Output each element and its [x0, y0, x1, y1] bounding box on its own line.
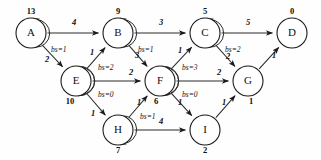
- self-loop-label-E-4: bs=0: [98, 90, 114, 99]
- node-label-D: D: [288, 26, 296, 38]
- self-loop-label-B-1: bs=1: [138, 45, 153, 54]
- graph-figure: ABCDEFGHI 4212133121141521bs=1bs=1bs=2bs…: [0, 0, 321, 160]
- edge-weight-E-H: 1: [91, 108, 95, 118]
- self-loop-label-E-3: bs=2: [98, 63, 114, 72]
- edge-weight-E-B: 1: [90, 47, 94, 57]
- edge-weight-B-C: 3: [158, 17, 164, 27]
- graph-node-G[interactable]: G: [233, 66, 263, 96]
- node-value-C: 5: [203, 6, 207, 16]
- node-value-I: 2: [203, 145, 207, 155]
- node-value-G: 1: [249, 96, 253, 106]
- node-value-F: 6: [154, 96, 158, 106]
- node-value-A: 13: [27, 6, 36, 16]
- edge-weight-E-F: 2: [128, 67, 134, 77]
- edge-weight-A-B: 4: [71, 17, 76, 27]
- edge-weight-F-G: 2: [216, 67, 222, 77]
- self-loop-label-A-0: bs=1: [51, 45, 66, 54]
- node-label-A: A: [27, 26, 35, 38]
- graph-node-F[interactable]: F: [145, 66, 175, 96]
- edge-weight-F-C: 1: [178, 45, 182, 55]
- graph-node-E[interactable]: E: [61, 66, 91, 96]
- node-value-D: 0: [290, 6, 294, 16]
- graph-node-H[interactable]: H: [103, 115, 133, 145]
- node-value-B: 9: [116, 6, 120, 16]
- graph-canvas: ABCDEFGHI 4212133121141521bs=1bs=1bs=2bs…: [0, 0, 321, 160]
- edge-weight-H-I: 4: [158, 116, 163, 126]
- graph-node-I[interactable]: I: [190, 115, 220, 145]
- node-label-I: I: [203, 123, 207, 135]
- edge-weight-C-D: 5: [246, 17, 251, 27]
- node-label-C: C: [201, 26, 208, 38]
- self-loop-label-F-6: bs=0: [182, 90, 198, 99]
- node-value-E: 10: [66, 96, 75, 106]
- node-label-H: H: [114, 123, 122, 135]
- self-loop-label-C-2: bs=2: [225, 45, 241, 54]
- node-label-B: B: [114, 26, 121, 38]
- edge-weight-A-E: 2: [44, 54, 50, 64]
- node-label-E: E: [73, 74, 80, 86]
- node-label-G: G: [244, 74, 252, 86]
- graph-node-C[interactable]: C: [190, 18, 220, 48]
- graph-node-A[interactable]: A: [16, 18, 46, 48]
- self-loop-label-F-5: bs=3: [182, 63, 198, 72]
- self-loop-label-H-7: bs=1: [140, 112, 155, 121]
- edge-weight-G-D: 1: [272, 50, 276, 60]
- edge-weight-H-F: 1: [137, 97, 141, 107]
- edge-weight-I-G: 1: [222, 97, 226, 107]
- node-value-H: 7: [116, 145, 121, 155]
- graph-node-D[interactable]: D: [277, 18, 307, 48]
- graph-node-B[interactable]: B: [103, 18, 133, 48]
- node-label-F: F: [157, 74, 163, 86]
